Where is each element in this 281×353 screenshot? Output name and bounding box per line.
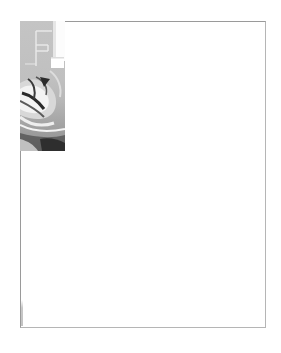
vertical-footer-text	[21, 300, 23, 326]
document-page	[0, 0, 281, 353]
decorative-banner-image	[20, 21, 65, 151]
abstract-swirl-icon	[20, 21, 65, 151]
